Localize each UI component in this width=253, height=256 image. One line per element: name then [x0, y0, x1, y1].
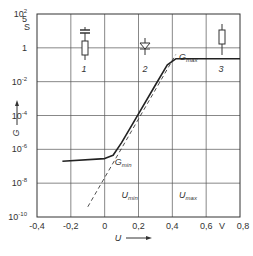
- y-tick-label: 10-8: [12, 177, 28, 188]
- y-tick-label: 10-6: [12, 143, 28, 154]
- annotation-g-max: Gmax: [179, 52, 198, 63]
- annotation-u-max: Umax: [179, 190, 198, 201]
- series-dashed-line: [88, 55, 176, 207]
- x-tick-label: -0,2: [63, 221, 79, 231]
- y-tick-exponent: -2: [22, 76, 28, 82]
- annotation-subscript: max: [186, 195, 198, 201]
- chart: -0,4-0,200,20,40,60,8 1025110-210-410-61…: [0, 0, 253, 256]
- x-tick-label: 0,2: [132, 221, 145, 231]
- grid: [37, 14, 240, 217]
- x-axis-arrowhead-icon: [146, 236, 152, 240]
- diode-icon: [140, 38, 150, 55]
- y-tick-label: 10-2: [12, 76, 28, 87]
- x-tick-labels: -0,4-0,200,20,40,60,8: [29, 221, 249, 231]
- x-unit-label: V: [219, 221, 225, 231]
- y-tick-exponent: -4: [22, 110, 28, 116]
- capacitor-with-resistor-icon: [80, 27, 90, 60]
- x-tick-label: 0,4: [166, 221, 179, 231]
- region-label-3: 3: [218, 64, 223, 74]
- annotation-subscript: min: [122, 162, 132, 168]
- x-tick-label: 0,8: [237, 221, 250, 231]
- resistor-icon: [219, 24, 225, 55]
- region-label-1: 1: [81, 64, 86, 74]
- annotation-g-min: Gmin: [115, 157, 132, 168]
- x-tick-label: -0,4: [29, 221, 45, 231]
- y-tick-exponent: -8: [22, 177, 28, 183]
- y-axis-arrowhead-icon: [15, 100, 19, 106]
- y-tick-exponent: -6: [22, 143, 28, 149]
- y-tick-label: 10-4: [12, 110, 28, 121]
- y-unit-label: S: [24, 22, 30, 32]
- annotation-u-min: Umin: [122, 190, 139, 201]
- x-tick-label: 0: [102, 221, 107, 231]
- x-axis-label: U: [115, 233, 122, 243]
- annotations: GminGmaxUminUmax: [115, 52, 199, 202]
- annotation-subscript: max: [186, 57, 198, 63]
- series-solid-line: [62, 59, 240, 161]
- y-tick-labels: 1025110-210-410-610-810-10: [8, 8, 27, 222]
- series-group: [62, 55, 240, 207]
- region-label-2: 2: [141, 64, 147, 74]
- y-tick-label: 1: [22, 43, 27, 53]
- y-tick-label: 10-10: [8, 211, 27, 222]
- x-tick-label: 0,6: [200, 221, 213, 231]
- y-axis-label: G: [11, 129, 21, 136]
- annotation-subscript: min: [128, 195, 138, 201]
- y-tick-exponent: -10: [18, 211, 27, 217]
